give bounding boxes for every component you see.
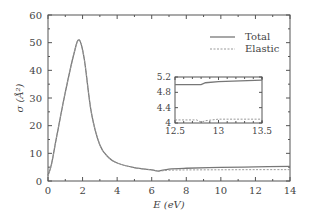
- y-tick-label: 10: [29, 148, 42, 159]
- x-tick-label: 2: [79, 185, 85, 196]
- inset-frame: [175, 77, 262, 123]
- y-tick-label: 60: [29, 10, 42, 21]
- y-tick-label: 40: [29, 65, 42, 76]
- x-tick-label: 14: [284, 185, 297, 196]
- y-axis-label: σ (Å²): [14, 83, 25, 112]
- inset-x-tick-label: 13.5: [252, 126, 272, 136]
- x-tick-label: 0: [45, 185, 51, 196]
- x-tick-label: 12: [249, 185, 262, 196]
- legend-total: Total: [245, 31, 270, 42]
- cross-section-chart: 024681012140102030405060E (eV)σ (Å²)Tota…: [0, 0, 313, 217]
- y-tick-label: 20: [29, 120, 42, 131]
- inset-y-tick-label: 4.4: [157, 103, 172, 113]
- x-tick-label: 8: [183, 185, 189, 196]
- y-tick-label: 30: [29, 93, 42, 104]
- inset-y-tick-label: 4.8: [157, 87, 172, 97]
- legend-elastic: Elastic: [245, 43, 280, 54]
- x-tick-label: 4: [114, 185, 120, 196]
- y-tick-label: 0: [36, 176, 42, 187]
- inset-y-tick-label: 4: [165, 118, 171, 128]
- x-tick-label: 6: [149, 185, 155, 196]
- x-axis-label: E (eV): [152, 199, 185, 210]
- x-tick-label: 10: [214, 185, 227, 196]
- inset-y-tick-label: 5.2: [157, 72, 171, 82]
- inset-x-tick-label: 13: [213, 126, 225, 136]
- y-tick-label: 50: [29, 37, 42, 48]
